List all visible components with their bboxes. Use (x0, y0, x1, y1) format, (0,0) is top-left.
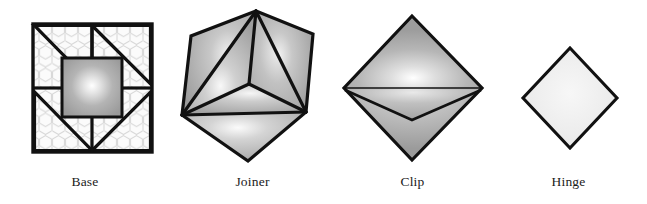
panel-label-joiner: Joiner (170, 174, 335, 190)
joiner-illustration (170, 0, 335, 174)
panel-label-base: Base (0, 174, 170, 190)
clip-body-top (344, 16, 482, 88)
base-illustration (0, 0, 170, 174)
components-figure: Base (0, 0, 647, 204)
figure-panel-base: Base (0, 0, 170, 204)
figure-panel-joiner: Joiner (170, 0, 335, 204)
panel-label-clip: Clip (335, 174, 490, 190)
panel-label-hinge: Hinge (490, 174, 647, 190)
figure-panel-hinge: Hinge (490, 0, 647, 204)
hinge-diamond (523, 48, 617, 148)
base-center-square (62, 58, 122, 117)
figure-panel-clip: Clip (335, 0, 490, 204)
clip-illustration (335, 0, 490, 174)
hinge-illustration (490, 0, 647, 174)
